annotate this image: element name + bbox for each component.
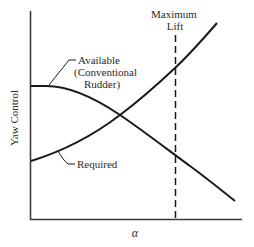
required-curve [31,23,217,161]
required-label: Required [77,158,118,170]
available-curve [31,86,235,201]
available-leader [49,60,76,85]
maximum-lift-label-line2: Lift [167,20,184,32]
available-label-line1: Available [78,54,120,66]
required-leader [58,151,75,164]
y-axis-label: Yaw Control [8,90,20,146]
x-axis-label: α [132,226,139,240]
yaw-control-chart: Available (Conventional Rudder) Required… [0,0,254,247]
axes [30,11,242,220]
available-label-line3: Rudder) [84,78,120,91]
maximum-lift-label-line1: Maximum [151,8,197,20]
